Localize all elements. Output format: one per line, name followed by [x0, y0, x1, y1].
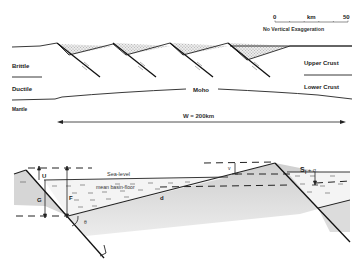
- scale-start-label: 0: [273, 14, 277, 20]
- label-theta: θ: [84, 219, 87, 225]
- scale-note: No Vertical Exaggeration: [263, 26, 324, 32]
- crust-section: Brittle Ductile Mantle Upper Crust Lower…: [12, 43, 352, 124]
- basin-detail: U G F θ d v Sea-level mean basin-floor S…: [14, 162, 350, 258]
- moho-line-right: [218, 89, 352, 99]
- rift-basin-diagram: 0 km 50 No Vertical Exaggeration: [0, 0, 363, 269]
- label-u: U: [42, 173, 46, 179]
- arrow-right-icon: [340, 120, 346, 124]
- scale-bar: 0 km 50 No Vertical Exaggeration: [263, 14, 350, 32]
- label-s-subscript: l: [305, 170, 306, 175]
- label-plus-sigma: + σ: [308, 167, 317, 173]
- label-sea-level: Sea-level: [107, 171, 130, 177]
- label-lower-crust: Lower Crust: [304, 84, 339, 90]
- scale-unit-label: km: [307, 14, 316, 20]
- u-arrow: [38, 166, 41, 180]
- label-ductile: Ductile: [12, 86, 33, 92]
- label-brittle: Brittle: [12, 63, 30, 69]
- label-upper-crust: Upper Crust: [304, 60, 339, 66]
- arrow-left-icon: [57, 120, 63, 124]
- label-mantle: Mantle: [12, 107, 28, 112]
- label-mean-basin-floor: mean basin-floor: [96, 184, 135, 190]
- label-g: G: [37, 197, 42, 203]
- label-moho: Moho: [193, 87, 209, 93]
- label-d: d: [160, 195, 164, 201]
- label-v: v: [228, 165, 231, 171]
- width-label: W = 200km: [183, 113, 214, 119]
- v-top-line: [204, 162, 275, 163]
- scale-end-label: 50: [343, 14, 350, 20]
- label-f: F: [69, 195, 73, 201]
- moho-line-left: [12, 89, 186, 100]
- slip-arrows: [82, 62, 259, 70]
